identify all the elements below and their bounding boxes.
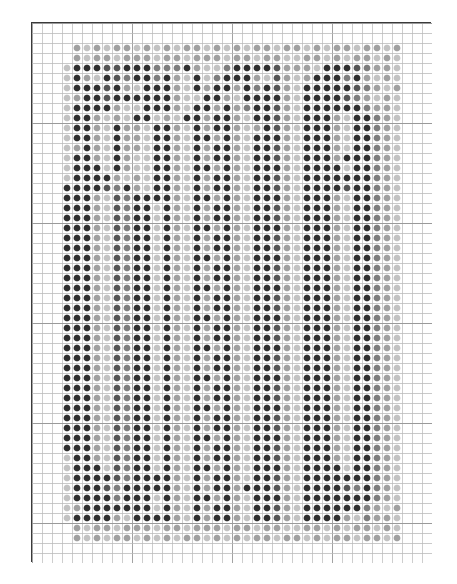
chart-frame xyxy=(31,22,431,562)
dot-matrix-layer[interactable] xyxy=(32,23,432,563)
chart-page xyxy=(0,0,457,584)
